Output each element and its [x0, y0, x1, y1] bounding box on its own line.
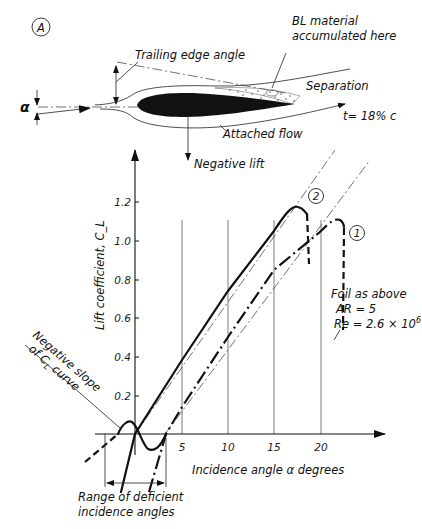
svg-text:20: 20: [314, 441, 328, 453]
svg-text:2: 2: [313, 190, 320, 202]
svg-text:A: A: [36, 21, 45, 35]
foil-note-2: AR = 5: [335, 302, 376, 316]
svg-text:5: 5: [179, 441, 186, 453]
attached-flow-label: Attached flow: [222, 127, 303, 141]
foil-note-3: Re = 2.6 × 106: [334, 316, 421, 331]
panel-label: A: [32, 18, 50, 36]
foil-note-leader: [334, 330, 340, 340]
deficient-wave: [118, 422, 166, 450]
trailing-edge-angle-label: Trailing edge angle: [135, 48, 245, 62]
svg-text:1.2: 1.2: [114, 196, 131, 208]
thickness-label: t= 18% c: [343, 109, 397, 123]
curve-2-marker: 2: [309, 189, 324, 204]
svg-text:0.6: 0.6: [114, 312, 131, 324]
airfoil-diagram: α Trailing edge angle BL material accumu: [20, 14, 397, 171]
alpha-symbol: α: [20, 99, 30, 115]
airfoil-body: [137, 93, 295, 117]
svg-text:10: 10: [221, 441, 235, 453]
svg-text:1.0: 1.0: [114, 235, 131, 247]
negative-lift-label: Negative lift: [194, 157, 265, 171]
x-axis-label: Incidence angle α degrees: [192, 463, 344, 477]
negative-branch-dashed: [85, 434, 118, 462]
svg-text:0.4: 0.4: [114, 351, 131, 363]
x-axis-ticks: 5 10 15 20: [179, 441, 328, 453]
te-angle-leader: [116, 62, 138, 82]
svg-text:15: 15: [267, 441, 281, 453]
range-label-1: Range of deficient: [78, 490, 184, 504]
svg-text:0.2: 0.2: [114, 390, 131, 402]
bl-material-label-2: accumulated here: [292, 29, 396, 43]
svg-text:1: 1: [354, 227, 361, 239]
svg-text:0.8: 0.8: [114, 274, 131, 286]
reference-line-2: [135, 150, 335, 434]
figure-canvas: A α Trailing edge angle: [0, 0, 422, 529]
bl-material-leader: [272, 53, 286, 88]
separation-label: Separation: [306, 79, 369, 93]
y-axis-label: Lift coefficient, C_L: [93, 220, 107, 330]
range-label-2: incidence angles: [78, 505, 175, 519]
curve-2-stall-drop: [307, 214, 309, 264]
foil-note-1: Foil as above: [331, 287, 407, 301]
curve-1-marker: 1: [350, 226, 365, 241]
freestream-arrow: [38, 108, 90, 114]
bl-material-label-1: BL material: [292, 14, 359, 28]
lift-curve-chart: 0.2 0.4 0.6 0.8 1.0 1.2 5 10 15 20 Incid…: [25, 150, 421, 519]
